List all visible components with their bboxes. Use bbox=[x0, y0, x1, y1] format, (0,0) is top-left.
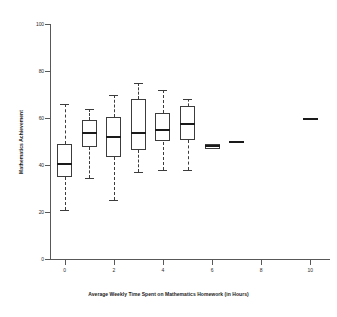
box-plot-figure: 020406080100 0246810 Average Weekly Time… bbox=[0, 0, 337, 317]
upper-whisker-cap bbox=[158, 90, 167, 91]
lower-whisker-stem bbox=[163, 142, 164, 170]
y-tick-mark bbox=[45, 259, 50, 260]
box-iqr-rect bbox=[57, 144, 72, 177]
median-line bbox=[82, 132, 97, 134]
upper-whisker-cap bbox=[134, 83, 143, 84]
median-line bbox=[180, 123, 195, 125]
lower-whisker-stem bbox=[114, 157, 115, 200]
y-tick-label: 20 bbox=[39, 210, 44, 215]
x-tick-label: 4 bbox=[153, 268, 173, 273]
upper-whisker-stem bbox=[188, 99, 189, 106]
median-line bbox=[155, 129, 170, 131]
median-line bbox=[229, 141, 244, 143]
y-tick-mark bbox=[45, 165, 50, 166]
lower-whisker-stem bbox=[188, 140, 189, 169]
upper-whisker-stem bbox=[138, 83, 139, 99]
y-tick-label: 100 bbox=[36, 22, 44, 27]
median-line bbox=[57, 163, 72, 165]
upper-whisker-stem bbox=[114, 95, 115, 117]
x-tick-label: 2 bbox=[104, 268, 124, 273]
x-tick-label: 6 bbox=[202, 268, 222, 273]
lower-whisker-stem bbox=[65, 177, 66, 210]
upper-whisker-cap bbox=[109, 95, 118, 96]
lower-whisker-cap bbox=[60, 210, 69, 211]
median-line bbox=[131, 132, 146, 134]
x-tick-label: 0 bbox=[55, 268, 75, 273]
x-tick-mark bbox=[310, 260, 311, 265]
median-line bbox=[106, 136, 121, 138]
box-iqr-rect bbox=[131, 99, 146, 150]
y-tick-label: 60 bbox=[39, 116, 44, 121]
upper-whisker-stem bbox=[163, 90, 164, 114]
y-tick-label: 80 bbox=[39, 69, 44, 74]
lower-whisker-cap bbox=[158, 170, 167, 171]
y-tick-mark bbox=[45, 71, 50, 72]
lower-whisker-cap bbox=[109, 200, 118, 201]
median-line bbox=[303, 118, 318, 120]
box-iqr-rect bbox=[155, 113, 170, 141]
upper-whisker-stem bbox=[89, 109, 90, 121]
upper-whisker-stem bbox=[65, 104, 66, 144]
x-tick-label: 8 bbox=[251, 268, 271, 273]
y-tick-label: 0 bbox=[41, 257, 44, 262]
lower-whisker-cap bbox=[134, 172, 143, 173]
y-axis-title: Mathematics Achievement bbox=[18, 24, 28, 260]
lower-whisker-cap bbox=[85, 178, 94, 179]
x-tick-mark bbox=[261, 260, 262, 265]
x-axis-line bbox=[50, 259, 330, 260]
upper-whisker-cap bbox=[85, 109, 94, 110]
x-tick-label: 10 bbox=[300, 268, 320, 273]
lower-whisker-stem bbox=[89, 147, 90, 178]
x-tick-mark bbox=[65, 260, 66, 265]
y-tick-mark bbox=[45, 212, 50, 213]
x-tick-mark bbox=[212, 260, 213, 265]
median-line bbox=[205, 145, 220, 147]
x-tick-mark bbox=[163, 260, 164, 265]
upper-whisker-cap bbox=[60, 104, 69, 105]
y-tick-label: 40 bbox=[39, 163, 44, 168]
y-tick-mark bbox=[45, 24, 50, 25]
lower-whisker-stem bbox=[138, 150, 139, 172]
upper-whisker-cap bbox=[183, 99, 192, 100]
x-tick-mark bbox=[114, 260, 115, 265]
y-tick-mark bbox=[45, 118, 50, 119]
lower-whisker-cap bbox=[183, 170, 192, 171]
y-axis-line bbox=[50, 24, 51, 260]
x-axis-title: Average Weekly Time Spent on Mathematics… bbox=[0, 291, 337, 297]
